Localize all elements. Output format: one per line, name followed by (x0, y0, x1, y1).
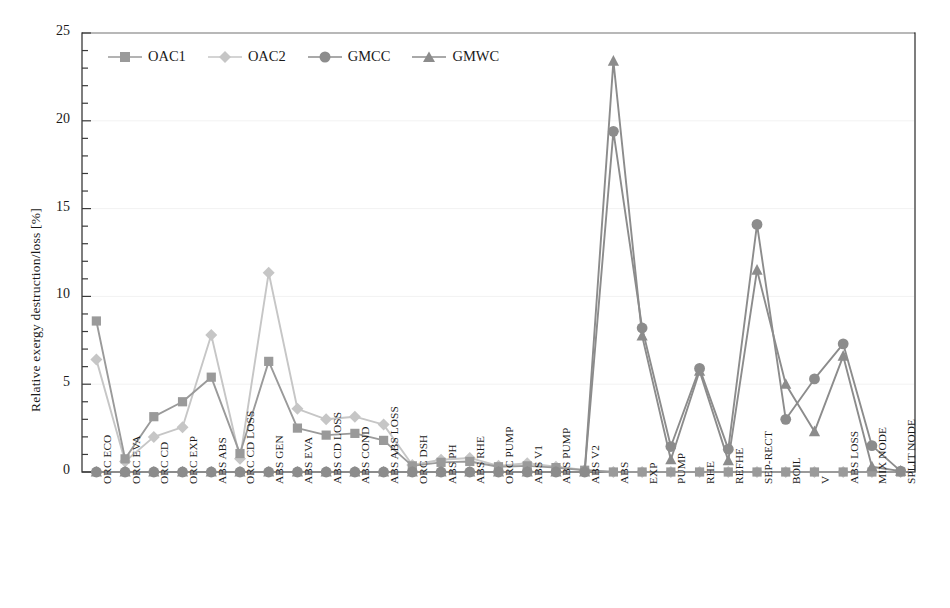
data-point (465, 457, 474, 466)
data-point (205, 329, 217, 341)
legend-label-oac2: OAC2 (248, 48, 286, 65)
chart-root: Relative exergy destruction/loss [%] OAC… (0, 0, 950, 608)
legend-item-gmcc[interactable]: GMCC (308, 48, 391, 65)
data-point (724, 467, 733, 476)
x-tick-label: REFHE (733, 448, 745, 484)
x-tick-label: V (819, 476, 831, 484)
data-point (263, 267, 275, 279)
x-tick-label: ABS RHE (474, 436, 486, 484)
data-point (322, 431, 331, 440)
x-tick-label: RHE (704, 461, 716, 484)
x-tick-label: MIX NODE (876, 427, 888, 484)
data-point (349, 411, 361, 423)
x-tick-label: ORC PUMP (503, 426, 515, 484)
data-point (780, 378, 791, 389)
x-tick-label: SPLIT NODE (905, 419, 917, 484)
legend-label-gmwc: GMWC (452, 48, 499, 65)
x-tick-label: EXP (647, 462, 659, 484)
data-point (781, 467, 790, 476)
y-tick-label: 20 (40, 111, 70, 127)
x-tick-label: ORC CD (158, 442, 170, 484)
legend-marker-diamond-icon (208, 49, 242, 65)
x-tick-label: ABS PH (446, 444, 458, 484)
legend-marker-circle-icon (308, 49, 342, 65)
chart-legend: OAC1 OAC2 GMCC GMWC (108, 48, 499, 65)
data-point (436, 458, 445, 467)
data-point (293, 424, 302, 433)
data-point (90, 354, 102, 366)
chart-canvas (0, 0, 950, 608)
data-point (608, 55, 619, 66)
x-tick-label: ABS PUMP (560, 428, 572, 484)
x-tick-label: ABS (618, 462, 630, 484)
legend-marker-triangle-icon (412, 49, 446, 65)
legend-marker-square-icon (108, 49, 142, 65)
data-point (207, 373, 216, 382)
x-tick-label: ABS V1 (532, 445, 544, 484)
data-point (752, 467, 761, 476)
y-tick-label: 15 (40, 199, 70, 215)
legend-item-gmwc[interactable]: GMWC (412, 48, 499, 65)
x-tick-label: ABS ABS (216, 437, 228, 484)
x-tick-label: ORC CD LOSS (244, 411, 256, 484)
legend-item-oac1[interactable]: OAC1 (108, 48, 186, 65)
data-point (609, 467, 618, 476)
data-point (149, 412, 158, 421)
data-point (638, 467, 647, 476)
x-tick-label: SEP-RECT (762, 431, 774, 484)
data-point (120, 454, 129, 463)
legend-label-gmcc: GMCC (348, 48, 391, 65)
x-tick-label: ORC DSH (417, 435, 429, 484)
series-oac2 (90, 267, 906, 478)
x-tick-label: ABS COND (359, 426, 371, 484)
data-point (809, 374, 820, 385)
data-point (291, 403, 303, 415)
x-tick-label: ABS ABS LOSS (388, 406, 400, 484)
series-line (96, 61, 900, 472)
x-tick-label: ORC EXP (187, 436, 199, 484)
data-point (177, 421, 189, 433)
x-tick-label: ORC EVA (130, 435, 142, 484)
data-point (751, 264, 762, 275)
data-point (752, 219, 763, 230)
legend-label-oac1: OAC1 (148, 48, 186, 65)
data-point (695, 467, 704, 476)
x-tick-label: ABS V2 (589, 445, 601, 484)
x-tick-label: ABS EVA (302, 437, 314, 484)
x-tick-label: ABS LOSS (848, 431, 860, 484)
data-point (838, 338, 849, 349)
y-tick-label: 25 (40, 23, 70, 39)
legend-item-oac2[interactable]: OAC2 (208, 48, 286, 65)
x-tick-label: PUMP (675, 453, 687, 484)
series-gmcc (91, 126, 906, 477)
data-point (810, 467, 819, 476)
data-point (379, 436, 388, 445)
data-point (178, 397, 187, 406)
y-tick-label: 5 (40, 374, 70, 390)
y-tick-label: 0 (40, 462, 70, 478)
data-point (839, 467, 848, 476)
x-tick-label: BOIL (790, 457, 802, 484)
data-point (264, 357, 273, 366)
plot-frame (82, 33, 915, 472)
x-tick-label: ABS GEN (273, 435, 285, 484)
x-tick-label: ORC ECO (101, 435, 113, 484)
data-point (809, 426, 820, 437)
x-tick-label: ABS CD LOSS (331, 412, 343, 484)
y-tick-label: 10 (40, 286, 70, 302)
data-point (780, 414, 791, 425)
data-point (92, 316, 101, 325)
series-line (96, 131, 900, 472)
